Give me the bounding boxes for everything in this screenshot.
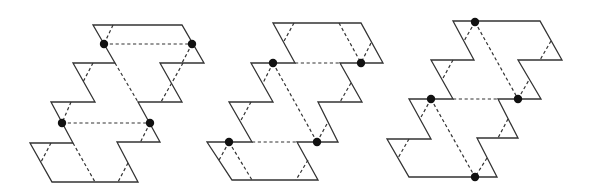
figure-2 [207,23,383,180]
diagram-canvas [0,0,589,195]
dashed-line [340,83,351,102]
marked-point [225,138,233,146]
dashed-line [283,23,294,43]
marked-point [146,119,154,127]
dashed-line [73,143,95,182]
dashed-line [498,119,508,138]
figure-outline [30,25,204,182]
marked-point [427,95,435,103]
dashed-line [540,41,551,60]
dashed-line [431,99,475,177]
dashed-line [41,143,51,162]
dashed-line [118,163,128,182]
dashed-line [339,23,361,63]
marked-point [188,40,196,48]
marked-point [357,59,365,67]
marked-point [269,59,277,67]
dashed-line [161,63,183,102]
marked-point [313,138,321,146]
figure-outline [387,21,562,177]
dashed-line [296,160,308,180]
marked-point [471,18,479,26]
dashed-line [475,22,518,99]
dashed-line [442,60,453,80]
marked-point [100,40,108,48]
figure-1 [30,25,204,182]
dashed-line [240,102,251,122]
figure-outline [207,23,383,180]
marked-point [514,95,522,103]
dashed-line [229,142,252,180]
figure-3 [387,18,562,181]
dashed-line [273,63,317,142]
dashed-line [398,139,409,158]
dashed-line [115,63,138,102]
marked-point [58,119,66,127]
dashed-line [83,63,93,82]
marked-point [471,173,479,181]
